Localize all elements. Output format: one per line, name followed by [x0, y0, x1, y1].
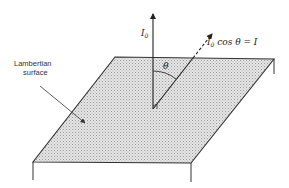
surface-label-line1: Lambertian — [14, 59, 52, 68]
normal-intensity-label: I0 — [140, 28, 149, 39]
oblique-intensity-equation: cos θ = I — [214, 37, 257, 47]
normal-intensity-subscript: 0 — [145, 32, 149, 39]
lambertian-diagram: I0 I0 cos θ = I θ Lambertian surface — [0, 0, 289, 188]
oblique-intensity-label: I0 cos θ = I — [206, 37, 258, 48]
angle-label: θ — [163, 61, 169, 71]
surface-label-line2: surface — [23, 68, 48, 77]
